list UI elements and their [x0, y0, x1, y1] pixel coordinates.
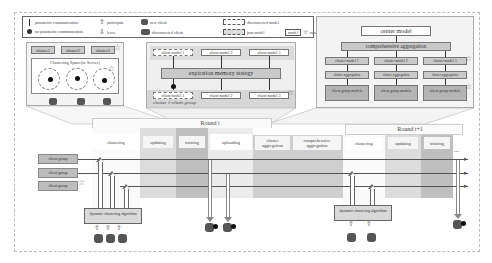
timeline-line	[78, 173, 468, 174]
dynamic-clustering-algorithm: dynamic clustering algorithm	[334, 205, 392, 221]
arrowhead-icon: ▸	[464, 155, 468, 163]
disconnect-icon	[213, 224, 218, 229]
client-group: client group	[38, 181, 78, 191]
disconnect-icon	[461, 221, 466, 226]
participate-arrow	[110, 176, 115, 208]
new-client-icon	[367, 233, 376, 242]
phase-training: training	[179, 136, 205, 148]
participate-small-arrows: ⇧⇧⇧	[94, 224, 127, 232]
phase-cluster-aggregation: cluster aggregation	[255, 136, 290, 150]
phase-clustering: clustering	[92, 134, 140, 150]
phase-updating-t1: updating	[388, 137, 418, 149]
phase-comprehensive-aggregation: comprehensive aggregation	[293, 136, 341, 150]
ellipsis: ...	[454, 146, 459, 154]
new-client-icon	[118, 234, 127, 243]
timeline-line	[78, 159, 468, 160]
participate-arrow	[98, 162, 103, 208]
leave-arrow	[208, 160, 212, 217]
dynamic-clustering-algorithm: dynamic clustering algorithm	[84, 208, 142, 224]
client-group: client group	[38, 154, 78, 164]
timeline-line	[120, 186, 468, 187]
disconnect-icon	[231, 224, 236, 229]
new-client-icon	[106, 234, 115, 243]
new-client-icon	[347, 233, 356, 242]
new-client-icon	[94, 234, 103, 243]
participate-small-arrows: ⇧⇧	[348, 220, 384, 228]
phase-training-t1: training	[424, 137, 450, 149]
phase-clustering-t1: clustering	[345, 137, 383, 150]
participate-arrow	[350, 176, 355, 208]
round-t1-label: Round t+1	[375, 126, 445, 132]
phase-updating: updating	[143, 136, 173, 148]
star-icon: ☆	[78, 179, 85, 187]
participate-arrow	[124, 189, 129, 208]
leave-arrow	[456, 160, 460, 214]
round-t-label: Round t	[180, 120, 240, 126]
leave-arrow	[226, 174, 230, 217]
phase-uploading: uploading	[210, 134, 252, 150]
arrowhead-icon: ▸	[464, 182, 468, 190]
arrowhead-icon: ▸	[464, 169, 468, 177]
client-group: client group	[38, 168, 78, 178]
